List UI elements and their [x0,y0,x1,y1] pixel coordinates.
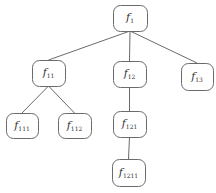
node-label-subscript: 111 [18,125,29,132]
edge-f1-f12 [130,31,131,61]
nodes: f1f11f12f13f111f112f121f1211 [7,6,214,187]
node-label-subscript: 13 [195,76,203,83]
node-f1: f1 [114,6,148,32]
node-f111: f111 [7,114,39,139]
node-f121: f121 [114,112,147,138]
edge-f11-f112 [49,86,75,113]
node-label-subscript: 12 [128,73,136,80]
node-label-subscript: 11 [47,72,55,79]
node-f11: f11 [33,61,66,87]
edge-f11-f111 [22,86,49,113]
tree-diagram: f1f11f12f13f111f112f121f1211 [0,0,216,193]
node-f13: f13 [182,64,214,91]
node-f112: f112 [59,114,92,139]
node-label-subscript: 112 [71,125,83,132]
edge-f1-f13 [130,31,197,63]
node-f1211: f1211 [113,160,146,187]
node-label-subscript: 1 [130,17,134,24]
edge-f1-f11 [49,31,131,60]
edge-f121-f1211 [129,137,130,159]
node-label-subscript: 1211 [123,172,138,179]
node-label-subscript: 121 [126,123,137,130]
edges [22,31,197,159]
node-f12: f12 [114,62,147,88]
